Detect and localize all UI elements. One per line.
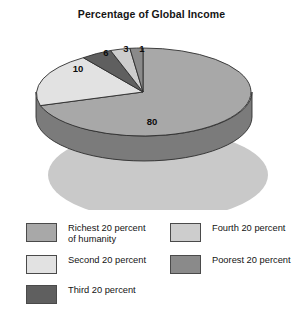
pie-chart-figure: Percentage of Global Income 80 10 6 3 1 [0, 0, 303, 323]
legend-swatch-poorest-icon [170, 255, 201, 274]
legend-swatch-second-icon [26, 255, 57, 274]
legend-label-second: Second 20 percent [68, 254, 146, 266]
legend-label-fourth: Fourth 20 percent [212, 222, 285, 234]
legend-label-poorest: Poorest 20 percent [212, 254, 291, 266]
legend-swatch-third-icon [26, 285, 57, 304]
legend-label-richest: Richest 20 percent of humanity [68, 222, 146, 244]
legend-item-third[interactable]: Third 20 percent [26, 284, 136, 304]
legend-label-third: Third 20 percent [68, 284, 136, 296]
legend-swatch-richest-icon [26, 223, 57, 242]
legend-swatch-fourth-icon [170, 223, 201, 242]
legend-item-poorest[interactable]: Poorest 20 percent [170, 254, 291, 274]
chart-legend: Richest 20 percent of humanity Second 20… [0, 222, 303, 317]
legend-item-richest[interactable]: Richest 20 percent of humanity [26, 222, 146, 244]
legend-item-fourth[interactable]: Fourth 20 percent [170, 222, 285, 242]
pie-svg [0, 20, 303, 210]
pie-plot-area: 80 10 6 3 1 [0, 20, 303, 210]
chart-title: Percentage of Global Income [0, 8, 303, 20]
legend-item-second[interactable]: Second 20 percent [26, 254, 146, 274]
